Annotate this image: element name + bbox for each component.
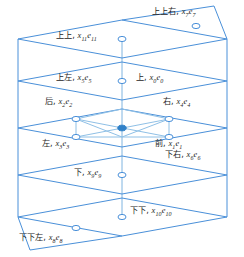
label-down: 下, x9e9 xyxy=(74,168,101,179)
node-down-down-left-marker xyxy=(72,225,80,230)
label-up-left-cn: 上左 xyxy=(56,72,72,82)
label-down-right: 下右, x6e6 xyxy=(165,150,200,161)
node-markers xyxy=(72,23,200,230)
label-up-up-cn: 上上 xyxy=(56,30,72,40)
label-right-esub: 4 xyxy=(187,102,190,108)
node-right-marker xyxy=(165,116,173,121)
node-up-up-marker xyxy=(118,36,126,41)
label-down-down-esub: 10 xyxy=(165,211,171,217)
label-back-cn: 后 xyxy=(45,96,53,106)
label-up-up-right-cn: 上上右 xyxy=(152,6,176,16)
label-down-down: 下下, x10e10 xyxy=(130,206,172,217)
label-down-right-esub: 6 xyxy=(197,155,200,161)
label-down-down-cn: 下下 xyxy=(130,205,146,215)
node-left-marker xyxy=(72,134,80,139)
label-up-left: 上左, x5e5 xyxy=(56,73,91,84)
lattice-diagram-svg xyxy=(0,0,244,257)
label-back: 后, x2e2 xyxy=(45,97,72,108)
label-up: 上, x0e0 xyxy=(136,73,163,84)
label-left-esub: 3 xyxy=(66,144,69,150)
label-down-down-left-esub: 8 xyxy=(59,238,62,244)
node-up-marker xyxy=(118,78,126,83)
label-up-up: 上上, x11e11 xyxy=(56,31,97,42)
node-back-marker xyxy=(72,116,80,121)
label-up-up-right: 上上右, x7e7 xyxy=(152,7,196,18)
label-up-up-esub: 11 xyxy=(91,36,97,42)
node-center-origin-marker xyxy=(118,125,126,131)
label-up-up-right-esub: 7 xyxy=(192,12,195,18)
label-right-cn: 右 xyxy=(163,96,171,106)
label-back-esub: 2 xyxy=(69,102,72,108)
label-up-cn: 上 xyxy=(136,72,144,82)
label-left-cn: 左 xyxy=(42,138,50,148)
diagram-canvas: 上上右, x7e7 上上, x11e11 上左, x5e5 上, x0e0 后,… xyxy=(0,0,244,257)
label-up-esub: 0 xyxy=(160,78,163,84)
edge-top-right-down xyxy=(214,6,227,39)
label-down-esub: 9 xyxy=(98,173,101,179)
node-down-down-marker xyxy=(118,214,126,219)
label-up-left-esub: 5 xyxy=(88,78,91,84)
label-down-cn: 下 xyxy=(74,167,82,177)
label-left: 左, x3e3 xyxy=(42,139,69,150)
label-right: 右, x4e4 xyxy=(163,97,190,108)
label-down-down-left-cn: 下下左 xyxy=(19,232,43,242)
label-front-cn: 前 xyxy=(155,138,163,148)
label-down-down-left: 下下左, x8e8 xyxy=(19,233,63,244)
node-down-marker xyxy=(118,172,126,177)
node-up-up-right-marker xyxy=(192,23,200,28)
label-down-right-cn: 下右 xyxy=(165,149,181,159)
